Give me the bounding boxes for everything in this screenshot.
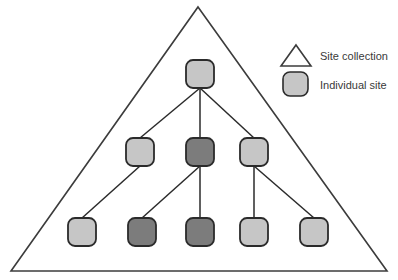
edge-mid-2-to-leaf-2 xyxy=(142,166,200,218)
edge-root-to-mid-1 xyxy=(140,88,200,138)
hierarchy-diagram: Site collectionIndividual site xyxy=(0,0,398,280)
legend-label-0: Site collection xyxy=(320,50,388,62)
edge-mid-3-to-leaf-5 xyxy=(254,166,314,218)
site-node-leaf-2[interactable] xyxy=(128,218,156,246)
site-node-mid-3[interactable] xyxy=(240,138,268,166)
edge-root-to-mid-3 xyxy=(200,88,254,138)
site-node-leaf-1[interactable] xyxy=(68,218,96,246)
site-node-leaf-3[interactable] xyxy=(186,218,214,246)
rounded-square-icon xyxy=(283,72,308,96)
site-node-leaf-5[interactable] xyxy=(300,218,328,246)
triangle-icon xyxy=(281,45,311,66)
edge-mid-1-to-leaf-1 xyxy=(82,166,140,218)
legend: Site collectionIndividual site xyxy=(281,45,388,96)
site-node-root[interactable] xyxy=(186,60,214,88)
site-node-leaf-4[interactable] xyxy=(240,218,268,246)
legend-label-1: Individual site xyxy=(320,79,387,91)
site-node-mid-2[interactable] xyxy=(186,138,214,166)
diagram-container: Site collectionIndividual site xyxy=(0,0,398,280)
site-node-mid-1[interactable] xyxy=(126,138,154,166)
